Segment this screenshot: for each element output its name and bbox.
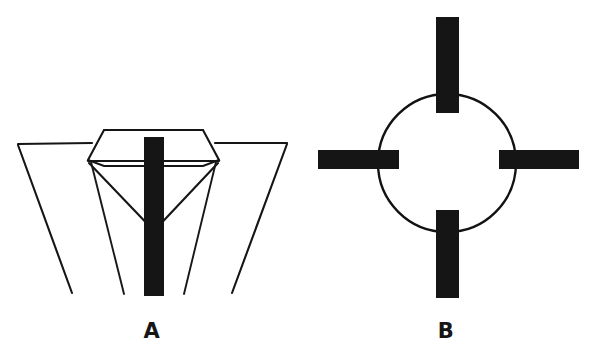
panel-b-bar-left — [318, 150, 399, 169]
figure-plate: A B — [0, 0, 596, 359]
panel-b-bar-top — [436, 17, 459, 113]
panel-a-label: A — [144, 319, 161, 343]
panel-a-outer-left-rim — [18, 143, 92, 144]
figure-drawing-canvas: A B — [0, 0, 596, 359]
panel-b-label: B — [438, 319, 455, 343]
panel-b-bar-right — [499, 150, 579, 169]
panel-b-bar-bottom — [436, 210, 459, 298]
panel-a-center-bar — [144, 137, 164, 296]
canvas-background — [0, 0, 596, 359]
